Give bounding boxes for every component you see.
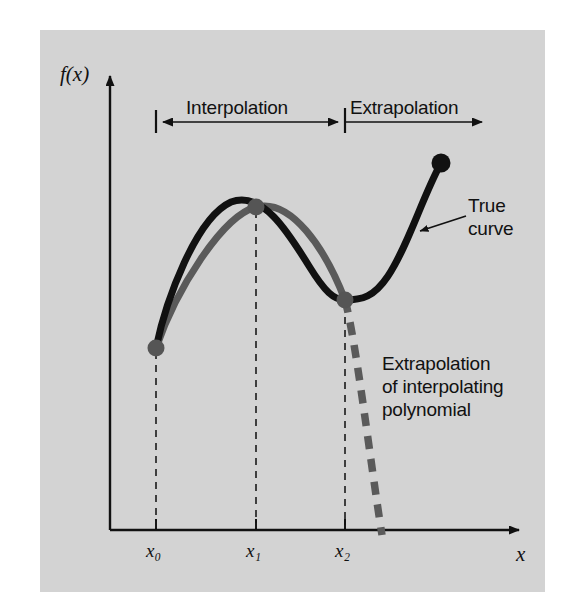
x-axis-tick-label-x0: x₀ [146, 540, 161, 562]
extrapolated-polynomial-dashed-curve [345, 300, 382, 535]
y-axis-label: f(x) [60, 62, 89, 87]
extrapolation-polynomial-annotation-line-1: Extrapolation [382, 352, 503, 375]
plot-graphics [0, 0, 581, 613]
extrapolation-range-label: Extrapolation [350, 96, 458, 119]
extrapolation-polynomial-annotation-line-2: of interpolating [382, 375, 503, 398]
true-curve-annotation-line-2: curve [468, 217, 513, 240]
true-curve-pointer-arrow [420, 216, 466, 231]
true-curve-endpoint-dot [432, 154, 451, 173]
x-axis-label: x [516, 542, 525, 567]
x-axis-tick-label-x2: x₂ [335, 540, 350, 562]
x-axis-tick-label-x1: x₁ [246, 540, 261, 562]
figure-root: · · · · · · · · · · · · · · · [0, 0, 581, 613]
data-point-x0 [148, 340, 165, 357]
true-curve [156, 163, 441, 348]
extrapolation-polynomial-annotation: Extrapolation of interpolating polynomia… [382, 352, 503, 421]
extrapolation-polynomial-annotation-line-3: polynomial [382, 398, 503, 421]
interpolation-range-label: Interpolation [186, 96, 288, 119]
true-curve-annotation: True curve [468, 194, 513, 240]
true-curve-annotation-line-1: True [468, 194, 513, 217]
x-axis-ticks [156, 519, 345, 530]
data-point-x1 [248, 199, 265, 216]
data-point-x2 [337, 292, 354, 309]
